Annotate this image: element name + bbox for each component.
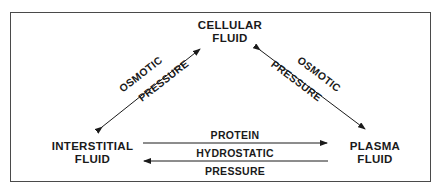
- cellular-line1: CELLULAR: [190, 19, 270, 32]
- plasma-line2: FLUID: [340, 153, 410, 166]
- label-protein: PROTEIN: [180, 129, 290, 141]
- node-interstitial-fluid: INTERSTITIAL FLUID: [45, 140, 140, 166]
- node-plasma-fluid: PLASMA FLUID: [340, 140, 410, 166]
- label-hydrostatic: HYDROSTATIC: [180, 147, 290, 159]
- interstitial-line2: FLUID: [45, 153, 140, 166]
- label-pressure-bottom: PRESSURE: [180, 165, 290, 177]
- node-cellular-fluid: CELLULAR FLUID: [190, 19, 270, 45]
- plasma-line1: PLASMA: [340, 140, 410, 153]
- cellular-line2: FLUID: [190, 32, 270, 45]
- interstitial-line1: INTERSTITIAL: [45, 140, 140, 153]
